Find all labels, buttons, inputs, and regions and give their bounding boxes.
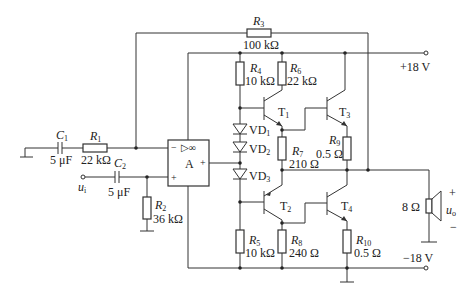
amplifier-schematic: C1 5 μF R1 22 kΩ C2 5 μF ui R2 36 kΩ R3 … (0, 0, 469, 294)
label-supply-positive: +18 V (400, 61, 430, 73)
opamp-minus: − (171, 143, 177, 153)
value-r8: 240 Ω (289, 247, 319, 259)
opamp-plus: + (171, 173, 177, 183)
label-r1: R1 (90, 130, 101, 144)
label-output-uo: uo (446, 204, 456, 218)
value-r3: 100 kΩ (243, 39, 279, 51)
label-speaker: 8 Ω (402, 201, 420, 213)
value-r1: 22 kΩ (81, 154, 111, 166)
output-plus: + (449, 187, 456, 199)
label-r2: R2 (155, 199, 166, 213)
value-r4: 10 kΩ (245, 75, 275, 87)
label-t3: T3 (339, 106, 350, 120)
label-c1: C1 (56, 129, 68, 143)
value-r9: 0.5 Ω (316, 148, 343, 160)
value-r10: 0.5 Ω (354, 247, 381, 259)
label-supply-negative: −18 V (403, 252, 433, 264)
value-r2: 36 kΩ (153, 213, 183, 225)
value-r6: 22 kΩ (287, 75, 317, 87)
label-vd3: VD3 (249, 170, 270, 184)
label-c2: C2 (114, 157, 126, 171)
value-c1: 5 μF (50, 154, 72, 166)
label-input-ui: ui (78, 181, 86, 195)
label-t1: T1 (278, 106, 289, 120)
opamp-out-plus: + (200, 158, 206, 168)
opamp-symbol: ▷∞ (181, 143, 196, 153)
value-r7: 210 Ω (289, 158, 319, 170)
label-t2: T2 (280, 200, 291, 214)
label-vd1: VD1 (249, 124, 270, 138)
label-vd2: VD2 (249, 143, 270, 157)
value-c2: 5 μF (108, 186, 130, 198)
opamp-name: A (185, 158, 194, 170)
circuit-wires (0, 0, 469, 294)
value-r5: 10 kΩ (245, 247, 275, 259)
label-r3: R3 (253, 15, 264, 29)
output-minus: − (450, 221, 457, 233)
label-t4: T4 (341, 200, 352, 214)
label-r9: R9 (329, 134, 340, 148)
